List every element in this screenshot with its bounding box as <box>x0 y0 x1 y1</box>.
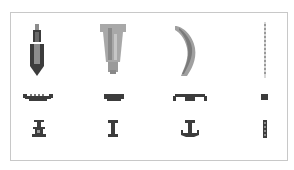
icon-grid-panel <box>10 12 288 161</box>
anchor-icon[interactable] <box>180 120 200 138</box>
wide-bracket-icon[interactable] <box>173 94 207 104</box>
dotted-bar-icon[interactable] <box>262 120 268 138</box>
small-square-icon[interactable] <box>261 94 269 102</box>
thin-dotted-line-icon[interactable] <box>262 22 268 78</box>
spool-icon[interactable] <box>31 120 47 138</box>
pencil-tip-icon[interactable] <box>27 22 47 78</box>
crescent-icon[interactable] <box>173 22 201 78</box>
tapered-plug-icon[interactable] <box>98 24 128 78</box>
crown-platform-icon[interactable] <box>23 92 53 102</box>
flat-bar-icon[interactable] <box>104 94 124 102</box>
i-beam-icon[interactable] <box>107 120 119 138</box>
